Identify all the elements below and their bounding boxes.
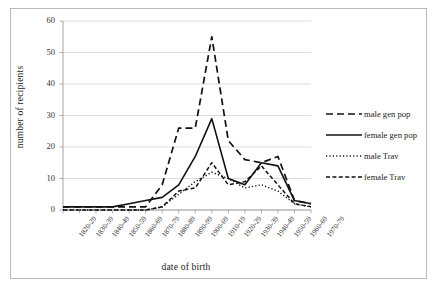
- line-chart: number of recipients date of birth 01020…: [0, 0, 439, 289]
- legend-item[interactable]: female gen pop: [325, 124, 433, 145]
- legend-label: female gen pop: [363, 130, 417, 140]
- legend-key-dotted-icon: [325, 151, 363, 161]
- chart-legend: male gen popfemale gen popmale Travfemal…: [325, 103, 433, 187]
- legend-key-solid-icon: [325, 130, 363, 140]
- legend-label: male Trav: [363, 151, 399, 161]
- legend-item[interactable]: male gen pop: [325, 103, 433, 124]
- series-line-male-gen-pop: [63, 37, 311, 207]
- series-line-female-gen-pop: [63, 119, 311, 207]
- legend-key-dashed-icon: [325, 109, 363, 119]
- legend-key-dash-dot-icon: [325, 172, 363, 182]
- legend-label: male gen pop: [363, 109, 410, 119]
- legend-item[interactable]: female Trav: [325, 166, 433, 187]
- series-line-male-trav: [63, 172, 311, 210]
- legend-item[interactable]: male Trav: [325, 145, 433, 166]
- legend-label: female Trav: [363, 172, 405, 182]
